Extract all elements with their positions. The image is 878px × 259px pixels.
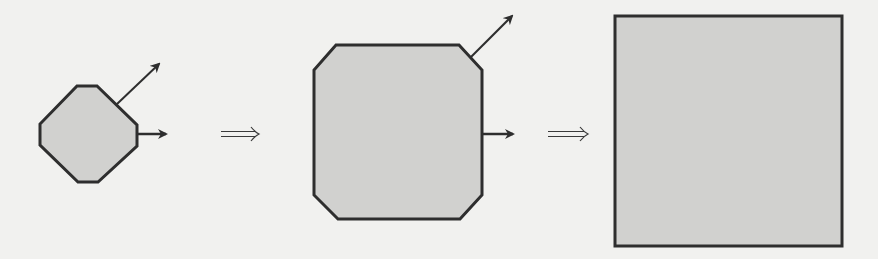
diagram-canvas — [0, 0, 878, 259]
diagonal-arrow-icon — [470, 16, 512, 58]
implies-arrow-icon — [548, 127, 588, 141]
stage-square — [615, 16, 842, 246]
diagonal-arrow-icon — [117, 64, 159, 104]
small-octagon-shape — [40, 86, 137, 182]
stage-small-octagon — [40, 64, 166, 182]
shape-growth-diagram — [0, 0, 878, 259]
implies-arrow-icon — [221, 127, 259, 141]
large-octagon-shape — [314, 45, 482, 219]
stage-large-octagon — [314, 16, 513, 219]
square-shape — [615, 16, 842, 246]
